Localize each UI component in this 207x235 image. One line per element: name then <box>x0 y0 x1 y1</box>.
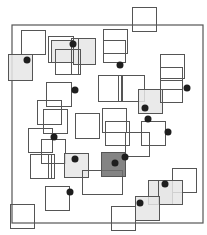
square-outline <box>44 110 68 134</box>
square-outline <box>103 109 127 133</box>
dot-marker <box>117 62 124 69</box>
square-outline <box>119 76 122 102</box>
square-outline <box>112 207 136 231</box>
dot-marker <box>112 160 119 167</box>
square-outline <box>49 155 52 179</box>
square-outline <box>29 129 53 153</box>
dot-marker <box>24 57 31 64</box>
square-outline <box>76 114 100 139</box>
square-outline <box>31 155 55 179</box>
dot-marker <box>184 85 191 92</box>
dot-marker <box>67 189 74 196</box>
square-outline <box>161 81 183 103</box>
dot-marker <box>72 156 79 163</box>
square-outline <box>142 122 166 146</box>
square-outline <box>38 101 62 125</box>
square-outline <box>47 83 72 107</box>
square-outline <box>42 140 66 164</box>
dot-marker <box>51 134 58 141</box>
square-outline <box>46 187 70 211</box>
square-group <box>9 8 197 231</box>
square-outline <box>11 205 35 229</box>
square-outline <box>133 8 157 32</box>
dot-marker <box>145 116 152 123</box>
square-outline <box>104 30 128 54</box>
square-outline <box>104 41 126 63</box>
square-outline <box>161 55 185 79</box>
square-light <box>74 39 96 65</box>
dot-marker <box>122 154 129 161</box>
diagram-canvas <box>0 0 207 235</box>
dot-marker <box>70 41 77 48</box>
square-outline <box>22 31 46 55</box>
dot-marker <box>137 200 144 207</box>
dot-marker <box>162 181 169 188</box>
dot-marker <box>142 105 149 112</box>
dot-marker <box>72 87 79 94</box>
dot-marker <box>165 129 172 136</box>
